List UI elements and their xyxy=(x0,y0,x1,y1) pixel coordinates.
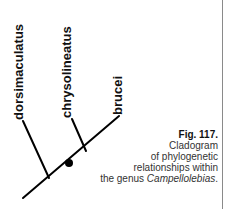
caption-line-1: Cladogram xyxy=(100,140,218,151)
figure-caption: Fig. 117. Cladogram of phylogenetic rela… xyxy=(100,129,218,184)
taxon-label-chrysolineatus: chrysolineatus xyxy=(60,15,73,118)
figure-number: Fig. 117. xyxy=(100,129,218,140)
taxon-label-dorsimaculatus: dorsimaculatus xyxy=(12,15,25,120)
taxon-label-brucei: brucei xyxy=(111,71,124,115)
caption-genus-name: Campellolebias xyxy=(147,173,215,184)
caption-line-3: relationships within xyxy=(100,162,218,173)
caption-line-4-suffix: . xyxy=(215,173,218,184)
caption-line-4: the genus Campellolebias. xyxy=(100,173,218,184)
vertical-rule-divider xyxy=(222,0,223,209)
caption-line-2: of phylogenetic xyxy=(100,151,218,162)
caption-line-4-prefix: the genus xyxy=(100,173,147,184)
branch-chrysolineatus xyxy=(72,119,86,151)
branch-dorsimaculatus xyxy=(23,121,49,178)
node-marker-dot xyxy=(65,159,73,167)
